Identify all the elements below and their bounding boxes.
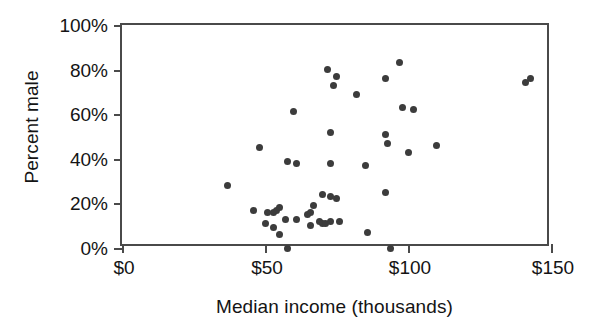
data-point xyxy=(410,106,417,113)
data-point xyxy=(405,149,412,156)
data-point xyxy=(327,160,334,167)
data-point xyxy=(527,75,534,82)
y-axis-tick-label: 80% xyxy=(70,60,108,82)
x-axis-tick-label: $100 xyxy=(389,257,431,279)
scatter-plot-figure: Percent male 0%20%40%60%80%100%$0$50$100… xyxy=(0,0,597,335)
data-point xyxy=(382,131,389,138)
data-point xyxy=(284,245,291,252)
y-axis-tick: 0% xyxy=(114,248,122,250)
y-axis-tick: 80% xyxy=(114,70,122,72)
x-axis-tick-label: $0 xyxy=(113,257,134,279)
y-axis-tick-label: 0% xyxy=(81,238,108,260)
data-point xyxy=(384,140,391,147)
data-point xyxy=(284,158,291,165)
data-point xyxy=(276,231,283,238)
data-point xyxy=(324,66,331,73)
x-axis-tick: $100 xyxy=(408,244,410,253)
data-point xyxy=(256,144,263,151)
data-point xyxy=(433,142,440,149)
data-point xyxy=(307,209,314,216)
data-point xyxy=(333,195,340,202)
y-axis-tick: 60% xyxy=(114,114,122,116)
y-axis-tick: 100% xyxy=(114,25,122,27)
data-point xyxy=(293,160,300,167)
x-axis-tick-label: $150 xyxy=(532,257,574,279)
y-axis-tick: 40% xyxy=(114,159,122,161)
y-axis-tick-label: 60% xyxy=(70,104,108,126)
data-point xyxy=(362,162,369,169)
data-point xyxy=(250,207,257,214)
x-axis-label: Median income (thousands) xyxy=(120,296,549,318)
data-point xyxy=(333,73,340,80)
data-point xyxy=(270,224,277,231)
data-point xyxy=(282,216,289,223)
data-point xyxy=(293,216,300,223)
plot-area: 0%20%40%60%80%100%$0$50$100$150 xyxy=(120,23,549,246)
data-points-layer xyxy=(122,25,551,248)
data-point xyxy=(353,91,360,98)
data-point xyxy=(382,75,389,82)
data-point xyxy=(330,82,337,89)
data-point xyxy=(327,218,334,225)
data-point xyxy=(399,104,406,111)
data-point xyxy=(262,220,269,227)
data-point xyxy=(310,202,317,209)
data-point xyxy=(319,191,326,198)
data-point xyxy=(387,245,394,252)
data-point xyxy=(307,222,314,229)
data-point xyxy=(364,229,371,236)
data-point xyxy=(336,218,343,225)
y-axis-tick-label: 100% xyxy=(59,15,108,37)
x-axis-tick-label: $50 xyxy=(251,257,283,279)
y-axis-tick-label: 20% xyxy=(70,193,108,215)
y-axis-label: Percent male xyxy=(21,32,43,222)
data-point xyxy=(224,182,231,189)
y-axis-tick: 20% xyxy=(114,203,122,205)
data-point xyxy=(396,59,403,66)
x-axis-tick: $150 xyxy=(551,244,553,253)
y-axis-tick-label: 40% xyxy=(70,149,108,171)
data-point xyxy=(290,108,297,115)
data-point xyxy=(382,189,389,196)
data-point xyxy=(276,204,283,211)
x-axis-tick: $0 xyxy=(122,244,124,253)
data-point xyxy=(327,129,334,136)
x-axis-tick: $50 xyxy=(265,244,267,253)
